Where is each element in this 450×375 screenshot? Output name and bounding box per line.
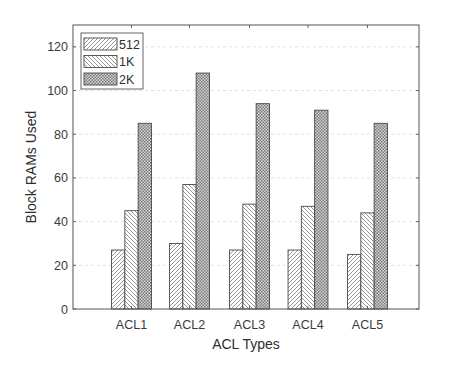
legend-item-2k: 2K <box>84 73 135 87</box>
y-tick-label: 60 <box>54 171 68 185</box>
legend-item-512: 512 <box>84 38 140 52</box>
bar-acl4-512 <box>288 250 301 309</box>
bar-acl4-2k <box>315 110 328 309</box>
legend-swatch-512 <box>84 38 117 50</box>
legend-item-1k: 1K <box>84 55 135 69</box>
bar-acl5-2k <box>374 123 387 309</box>
y-tick-label: 20 <box>54 259 68 273</box>
bar-group-acl2 <box>170 73 210 309</box>
bar-chart: 020406080100120 ACL1ACL2ACL3ACL4ACL5 ACL… <box>0 0 450 375</box>
legend-label-2k: 2K <box>119 73 135 87</box>
x-tick-label: ACL3 <box>234 318 265 332</box>
legend-label-1k: 1K <box>119 55 135 69</box>
x-tick-label: ACL2 <box>174 318 205 332</box>
y-tick-label: 80 <box>54 128 68 142</box>
x-tick-label: ACL4 <box>292 318 323 332</box>
bar-group-acl4 <box>288 110 328 309</box>
bar-acl1-512 <box>112 250 125 309</box>
bar-acl3-2k <box>256 104 269 309</box>
bar-acl3-512 <box>230 250 243 309</box>
legend-label-512: 512 <box>119 38 140 52</box>
legend-swatch-2k <box>84 73 117 85</box>
x-axis-label: ACL Types <box>212 336 280 352</box>
y-tick-label: 120 <box>47 40 68 54</box>
bar-series <box>112 73 388 309</box>
bar-group-acl1 <box>112 123 152 309</box>
y-tick-label: 100 <box>47 84 68 98</box>
legend-swatch-1k <box>84 56 117 68</box>
bar-acl5-1k <box>361 213 374 309</box>
bar-acl2-512 <box>170 243 183 309</box>
x-tick-label: ACL1 <box>116 318 147 332</box>
y-axis-label: Block RAMs Used <box>23 111 39 224</box>
bar-acl2-1k <box>183 184 196 309</box>
bar-group-acl5 <box>348 123 388 309</box>
bar-acl1-2k <box>138 123 151 309</box>
bar-acl3-1k <box>243 204 256 309</box>
legend: 512 1K 2K <box>81 33 143 89</box>
bar-acl1-1k <box>125 211 138 309</box>
bar-acl4-1k <box>301 206 314 309</box>
y-tick-label: 40 <box>54 215 68 229</box>
y-tick-label: 0 <box>61 303 68 317</box>
bar-acl5-512 <box>348 254 361 309</box>
x-tick-label: ACL5 <box>352 318 383 332</box>
bar-acl2-2k <box>196 73 209 309</box>
